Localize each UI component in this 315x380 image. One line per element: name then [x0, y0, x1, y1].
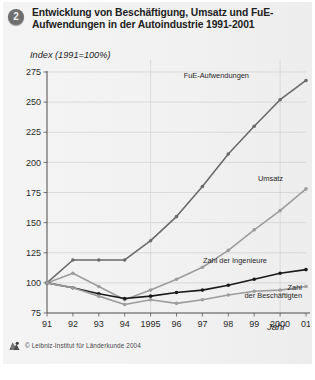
x-axis-tick: 91	[42, 319, 52, 329]
series-label: Zahl der Ingenieure	[203, 256, 267, 265]
copyright-credit: © Leibniz-Institut für Länderkunde 2004	[25, 342, 141, 349]
figure-header: 2 Entwicklung von Beschäftigung, Umsatz …	[5, 7, 305, 53]
page-title: Entwicklung von Beschäftigung, Umsatz un…	[32, 7, 300, 32]
data-point	[175, 302, 179, 306]
y-axis-tick: 75	[31, 308, 41, 318]
data-point	[97, 294, 101, 298]
x-axis-tick: 92	[68, 319, 78, 329]
data-point	[278, 209, 282, 213]
data-point	[71, 271, 75, 275]
figure-footer: © Leibniz-Institut für Länderkunde 2004	[8, 340, 288, 356]
data-point	[227, 293, 231, 297]
data-point	[123, 303, 127, 307]
y-axis-tick: 175	[26, 188, 41, 198]
series-label: der Beschäftigten	[244, 291, 302, 300]
data-point	[227, 152, 231, 156]
data-point	[278, 98, 282, 102]
data-point	[227, 283, 231, 287]
data-point	[71, 258, 75, 262]
data-point	[304, 79, 308, 83]
y-axis-tick: 275	[26, 67, 41, 77]
figure-card: 2 Entwicklung von Beschäftigung, Umsatz …	[0, 0, 315, 380]
x-axis-tick: 2000	[270, 319, 290, 329]
x-axis-tick: 94	[120, 319, 130, 329]
x-axis-tick: 1995	[141, 319, 161, 329]
x-axis-tick: 96	[171, 319, 181, 329]
data-point	[304, 268, 308, 272]
y-axis-tick: 100	[26, 278, 41, 288]
data-point	[252, 228, 256, 232]
data-point	[175, 215, 179, 219]
data-point	[149, 298, 153, 302]
data-point	[149, 294, 153, 298]
x-axis-tick: 99	[249, 319, 259, 329]
data-point	[201, 288, 205, 292]
data-point	[149, 288, 153, 292]
series-label: FuE-Aufwendungen	[184, 71, 249, 80]
data-point	[123, 258, 127, 262]
data-point	[201, 298, 205, 302]
x-axis-tick: 01	[301, 319, 310, 329]
data-point	[149, 239, 153, 243]
data-point	[227, 249, 231, 253]
y-axis-tick: 125	[26, 248, 41, 258]
y-axis-tick: 225	[26, 127, 41, 137]
data-point	[71, 286, 75, 290]
y-axis-tick: 150	[26, 218, 41, 228]
data-point	[252, 277, 256, 281]
data-point	[304, 187, 308, 191]
line-chart: Index (1991=100%) Jahr 27525022520017515…	[5, 50, 310, 332]
x-axis-tick: 93	[94, 319, 104, 329]
data-point	[45, 281, 49, 285]
data-point	[97, 285, 101, 289]
data-point	[97, 258, 101, 262]
institute-logo-icon	[8, 340, 21, 353]
data-point	[175, 277, 179, 281]
y-axis-tick: 200	[26, 158, 41, 168]
data-point	[252, 124, 256, 128]
data-point	[278, 271, 282, 275]
data-point	[175, 291, 179, 295]
series-label: Umsatz	[258, 174, 283, 183]
data-point	[304, 285, 308, 289]
data-point	[201, 265, 205, 269]
plot-area: 2752502252001751501251007591929394199596…	[5, 50, 310, 332]
figure-number-badge: 2	[8, 9, 24, 25]
data-point	[201, 185, 205, 189]
x-axis-tick: 97	[197, 319, 207, 329]
y-axis-tick: 250	[26, 97, 41, 107]
x-axis-tick: 98	[223, 319, 233, 329]
data-point	[123, 297, 127, 301]
